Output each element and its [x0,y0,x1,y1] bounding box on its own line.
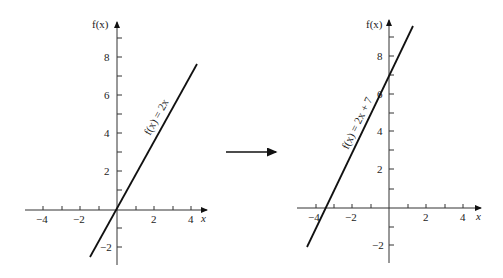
right-ytick-label: −2 [372,239,384,251]
left-y-ticks [117,38,122,247]
left-xtick-label: 2 [151,213,157,225]
left-ytick-label: −2 [100,241,112,253]
right-xtick-label: 2 [423,211,429,223]
right-xtick-label: 4 [460,211,466,223]
left-xlabel: x [200,212,206,224]
right-plot: f(x) x −4 −2 2 4 8 6 4 2 −2 f(x) = 2x + … [297,18,481,263]
right-ytick-label: 2 [377,163,383,175]
left-ytick-label: 4 [104,127,110,139]
right-ylabel: f(x) [366,18,383,31]
left-plot: f(x) x −4 −2 2 4 8 6 4 2 −2 f(x) = 2x [25,18,207,265]
figure: f(x) x −4 −2 2 4 8 6 4 2 −2 f(x) = 2x [0,0,503,278]
left-ytick-label: 8 [104,51,110,63]
left-xtick-label: −2 [73,213,85,225]
left-ytick-label: 6 [104,89,110,101]
left-ylabel: f(x) [92,18,109,31]
right-ytick-label: 8 [377,50,383,62]
left-xtick-label: 4 [188,213,194,225]
left-xtick-label: −4 [36,213,48,225]
right-ytick-label: 4 [377,125,383,137]
right-function-line [307,26,413,247]
right-xtick-label: −4 [308,211,320,223]
right-xlabel: x [475,210,481,222]
left-ytick-label: 2 [104,165,110,177]
right-xtick-label: −2 [345,211,357,223]
